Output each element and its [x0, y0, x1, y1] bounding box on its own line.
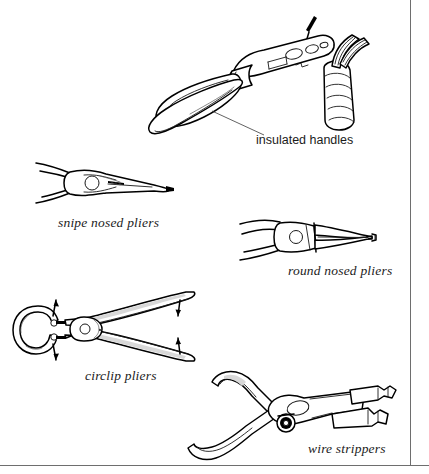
- figure-circlip-pliers: [8, 288, 208, 366]
- caption-round-nosed-pliers: round nosed pliers: [288, 263, 392, 279]
- callout-insulated-handles: insulated handles: [256, 133, 353, 147]
- caption-wire-strippers: wire strippers: [308, 441, 386, 457]
- frame-rule-right: [410, 0, 411, 466]
- illustration-page: insulated handles snipe nosed pliers: [0, 0, 429, 474]
- frame-rule-bottom: [0, 465, 429, 466]
- figure-wire-strippers-top: [128, 8, 378, 143]
- figure-snipe-nosed-pliers: [34, 155, 179, 210]
- caption-circlip-pliers: circlip pliers: [85, 368, 157, 384]
- figure-round-nosed-pliers: [238, 212, 390, 267]
- caption-snipe-nosed-pliers: snipe nosed pliers: [58, 215, 159, 231]
